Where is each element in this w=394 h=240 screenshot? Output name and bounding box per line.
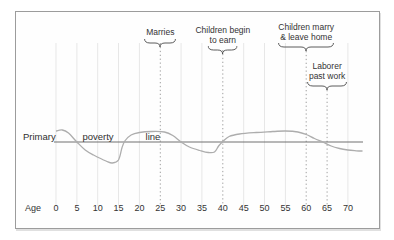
underbrace-path (145, 39, 176, 47)
age-tick-60: 60 (301, 203, 311, 214)
age-tick-5: 5 (74, 203, 79, 214)
age-tick-65: 65 (322, 203, 332, 214)
chart-frame: Marries Children begin to earn Children … (15, 11, 380, 229)
underbrace-icon (144, 39, 176, 48)
age-axis-label: Age (25, 203, 41, 214)
event-line: to earn (195, 36, 250, 46)
age-tick-55: 55 (280, 203, 290, 214)
underbrace-icon (208, 46, 238, 55)
underbrace-path (208, 46, 237, 54)
underbrace-path (279, 43, 334, 51)
event-line: Marries (146, 28, 174, 38)
age-tick-35: 35 (197, 203, 207, 214)
event-text: Children begin to earn (195, 26, 250, 45)
event-text: Children marry & leave home (278, 23, 334, 42)
age-tick-30: 30 (176, 203, 186, 214)
underbrace-path (308, 82, 347, 90)
age-tick-25: 25 (155, 203, 165, 214)
poverty-line-label-line: line (146, 132, 161, 142)
underbrace-icon (307, 82, 347, 91)
event-label-children-marry-leave-home: Children marry & leave home (278, 23, 334, 52)
event-line: & leave home (278, 33, 334, 43)
event-label-children-begin-to-earn: Children begin to earn (195, 26, 250, 55)
age-tick-10: 10 (93, 203, 103, 214)
underbrace-icon (278, 43, 334, 52)
age-tick-20: 20 (134, 203, 144, 214)
event-label-marries: Marries (144, 28, 176, 48)
poverty-line-label-primary: Primary (23, 132, 56, 142)
age-tick-45: 45 (239, 203, 249, 214)
age-tick-0: 0 (53, 203, 58, 214)
age-tick-40: 40 (218, 203, 228, 214)
age-axis: Age 0510152025303540455055606570 (16, 203, 379, 217)
age-tick-50: 50 (259, 203, 269, 214)
event-line: past work (309, 72, 345, 82)
poverty-line-label-poverty: poverty (82, 132, 113, 142)
event-text: Laborer past work (309, 62, 345, 81)
event-label-laborer-past-work: Laborer past work (307, 62, 347, 91)
age-tick-15: 15 (113, 203, 123, 214)
event-text: Marries (146, 28, 174, 38)
age-tick-70: 70 (343, 203, 353, 214)
